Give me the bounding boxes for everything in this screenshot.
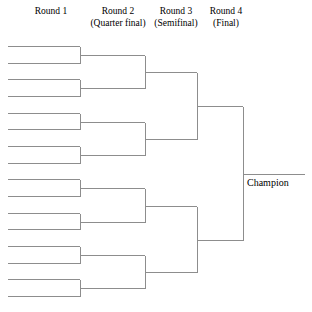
tournament-bracket-lines [0, 0, 312, 312]
champion-label: Champion [247, 177, 289, 189]
round-4-lines [197, 73, 243, 273]
round-2-lines [80, 47, 145, 297]
champion-line [243, 107, 305, 241]
round-3-lines [145, 56, 197, 289]
round-1-lines [8, 47, 80, 297]
bracket-page: Round 1 Round 2 (Quarter final) Round 3 … [0, 0, 312, 312]
